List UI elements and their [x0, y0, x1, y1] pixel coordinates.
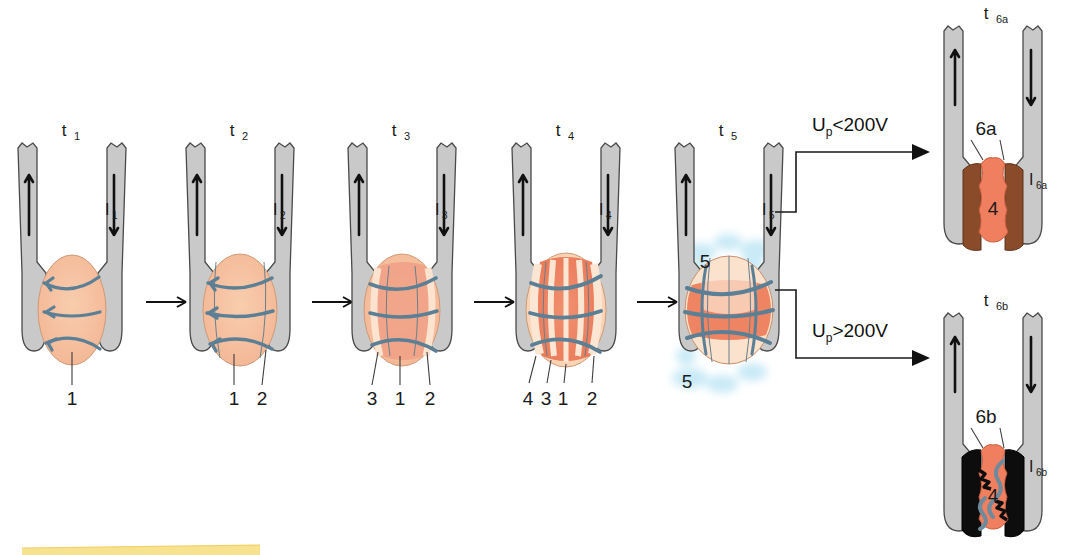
leader-6a-left [971, 140, 983, 160]
stage-label-t2-sub: 2 [242, 130, 248, 142]
stage-label-t1-sub: 1 [74, 130, 80, 142]
callout-3-t3: 3 [367, 388, 378, 409]
black-zone-left-t6b [962, 450, 981, 537]
brown-zone-left-t6a [963, 164, 981, 251]
current-label-t3: I [435, 201, 439, 218]
stage-t2: 1 2 t 2 I 2 [186, 121, 294, 409]
callout-2-t4: 2 [587, 388, 598, 409]
stage-label-t6b: t [984, 291, 989, 310]
nugget-t3 [364, 254, 440, 366]
condition-label-lower: Up>200V [812, 320, 888, 345]
current-label-t1: I [105, 201, 109, 218]
stage-label-t3-sub: 3 [404, 130, 410, 142]
zone-label-6a: 6a [975, 118, 997, 139]
stage-label-t4-sub: 4 [568, 130, 574, 142]
process-arrow-2 [312, 297, 352, 307]
branch-line-upper [775, 152, 912, 212]
current-label-t3-sub: 3 [442, 210, 448, 221]
nugget-t6a: 4 [963, 158, 1023, 251]
stage-label-t6a-sub: 6a [996, 13, 1009, 25]
callout-leader-t3-2 [427, 352, 430, 385]
stage-label-t5-sub: 5 [731, 130, 737, 142]
leader-6b-right [1000, 428, 1004, 448]
stage-t5: 5 5 t 5 I 5 [672, 121, 783, 393]
current-label-t6b: I [1029, 458, 1033, 475]
current-label-t6a: I [1029, 171, 1033, 188]
highlight-bar [22, 545, 260, 555]
callout-1-t2: 1 [229, 388, 240, 409]
stage-t3: 3 1 2 t 3 I 3 [348, 121, 456, 409]
black-zone-right-t6b [1005, 450, 1024, 537]
stage-label-t5: t [719, 121, 724, 140]
callout-1-t4: 1 [558, 388, 569, 409]
callout-2-t3: 2 [425, 388, 436, 409]
diagram-svg: 1 t 1 I 1 1 2 t 2 I 2 [0, 0, 1074, 555]
callout-leader-t2-2 [262, 350, 266, 385]
callout-leader-t4-2 [592, 356, 594, 383]
callout-leader-t3-3 [372, 352, 378, 385]
stage-label-t1: t [62, 121, 67, 140]
current-label-t5-sub: 5 [769, 210, 775, 221]
nugget-number-t6a: 4 [988, 198, 999, 219]
stage-label-t4: t [556, 121, 561, 140]
current-label-t4: I [599, 201, 603, 218]
condition-label-upper: Up<200V [812, 114, 888, 139]
condition-lower-rest: >200V [832, 320, 888, 341]
branch-t6b: 4 6b t 6b I 6b [944, 291, 1048, 537]
callout-1-t3: 1 [395, 388, 406, 409]
callout-2-t2: 2 [257, 388, 268, 409]
branch-arrowhead-lower [912, 350, 930, 366]
current-label-t4-sub: 4 [606, 210, 612, 221]
stage-label-t6a: t [984, 4, 989, 23]
zone-label-6b: 6b [975, 406, 996, 427]
current-label-t6b-sub: 6b [1036, 467, 1048, 478]
callout-4-t4: 4 [523, 388, 534, 409]
stage-t4: 4 3 1 2 t 4 I 4 [512, 121, 620, 409]
condition-lower-prefix: U [812, 320, 826, 341]
branch-connectors: Up<200V Up>200V [775, 114, 930, 366]
current-label-t2: I [273, 201, 277, 218]
process-arrow-1 [146, 297, 186, 307]
callout-5-top-t5: 5 [700, 251, 711, 272]
condition-upper-rest: <200V [832, 114, 888, 135]
nugget-t4 [526, 253, 606, 367]
process-arrow-3 [474, 297, 514, 307]
brown-zone-right-t6a [1005, 164, 1023, 251]
condition-upper-prefix: U [812, 114, 826, 135]
callout-3-t4: 3 [541, 388, 552, 409]
nugget-number-t6b: 4 [988, 485, 999, 506]
callout-leader-t4-4 [529, 356, 536, 383]
process-arrow-4 [637, 297, 677, 307]
figure-canvas: 1 t 1 I 1 1 2 t 2 I 2 [0, 0, 1074, 555]
current-label-t1-sub: 1 [112, 210, 118, 221]
stage-t1: 1 t 1 I 1 [18, 121, 126, 409]
stage-label-t2: t [230, 121, 235, 140]
nugget-t1 [38, 255, 106, 365]
current-label-t5: I [762, 201, 766, 218]
current-label-t6a-sub: 6a [1036, 180, 1048, 191]
stage-label-t6b-sub: 6b [996, 300, 1008, 312]
callout-5-bottom-t5: 5 [682, 371, 693, 392]
nugget-t2 [203, 254, 277, 366]
nugget-t6b: 4 [962, 445, 1024, 537]
leader-6b-left [971, 428, 983, 448]
stage-label-t3: t [392, 121, 397, 140]
branch-t6a: 4 6a t 6a I 6a [944, 4, 1048, 250]
callout-leader-t4-3 [547, 360, 551, 383]
leader-6a-right [1000, 140, 1004, 160]
callout-1-t1: 1 [67, 388, 78, 409]
nugget-t5 [685, 256, 773, 364]
current-label-t2-sub: 2 [280, 210, 286, 221]
branch-arrowhead-upper [912, 144, 930, 160]
